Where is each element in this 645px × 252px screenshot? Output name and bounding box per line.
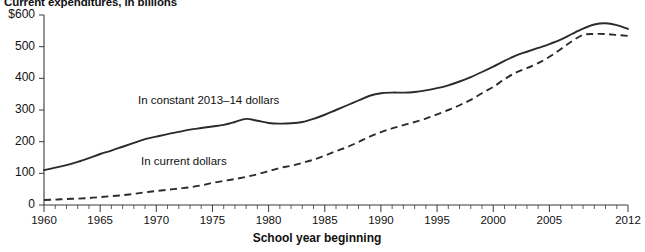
data-series-group — [44, 23, 628, 200]
series-label-current-dollars: In current dollars — [141, 155, 227, 167]
y-tick-label: 500 — [0, 39, 35, 53]
x-tick-label: 1970 — [126, 214, 186, 226]
y-tick-label: 100 — [0, 165, 35, 179]
x-tick-label: 1980 — [239, 214, 299, 226]
x-tick-label: 1975 — [182, 214, 242, 226]
x-tick-label: 1965 — [70, 214, 130, 226]
x-tick-label: 2000 — [463, 214, 523, 226]
y-tick-label: 0 — [0, 197, 35, 211]
series-line-current-dollars — [44, 34, 628, 200]
x-tick-label: 1995 — [407, 214, 467, 226]
x-tick-label: 2005 — [519, 214, 579, 226]
x-tick-label: 2012 — [598, 214, 645, 226]
y-axis-ticks — [39, 15, 44, 205]
x-axis-title: School year beginning — [0, 231, 634, 245]
y-tick-label: $600 — [0, 7, 35, 21]
x-tick-label: 1985 — [295, 214, 355, 226]
y-tick-label: 200 — [0, 134, 35, 148]
x-tick-label: 1960 — [14, 214, 74, 226]
x-tick-label: 1990 — [351, 214, 411, 226]
series-label-constant-dollars: In constant 2013–14 dollars — [138, 94, 279, 106]
x-axis-ticks — [44, 205, 628, 212]
axes-group — [39, 15, 628, 212]
y-tick-label: 400 — [0, 70, 35, 84]
series-line-constant-dollars — [44, 23, 628, 170]
y-tick-label: 300 — [0, 102, 35, 116]
